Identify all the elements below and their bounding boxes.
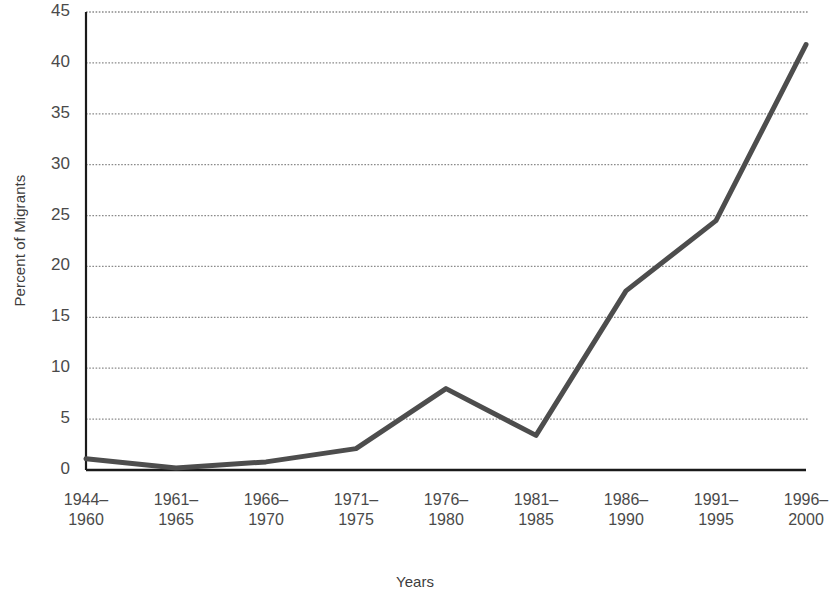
x-axis-tick-label: 1976– 1980 <box>396 490 496 530</box>
x-axis-tick-label: 1981– 1985 <box>486 490 586 530</box>
y-axis-tick-label: 40 <box>30 53 70 70</box>
y-axis-tick-label: 15 <box>30 307 70 324</box>
data-series-line <box>86 45 806 468</box>
y-axis-tick-label: 45 <box>30 2 70 19</box>
y-axis-tick-label: 20 <box>30 256 70 273</box>
gridlines <box>86 12 808 419</box>
x-axis-tick-label: 1944– 1960 <box>36 490 136 530</box>
y-axis-tick-label: 0 <box>30 460 70 477</box>
x-axis-tick-label: 1961– 1965 <box>126 490 226 530</box>
axis-lines <box>86 12 806 470</box>
x-axis-tick-label: 1986– 1990 <box>576 490 676 530</box>
x-axis-tick-label: 1996– 2000 <box>756 490 830 530</box>
chart-container: Percent of Migrants 051015202530354045 1… <box>0 0 830 603</box>
x-axis-tick-label: 1991– 1995 <box>666 490 766 530</box>
y-axis-tick-label: 35 <box>30 104 70 121</box>
y-axis-tick-label: 25 <box>30 206 70 223</box>
x-axis-tick-label: 1971– 1975 <box>306 490 406 530</box>
y-axis-tick-label: 10 <box>30 358 70 375</box>
y-axis-tick-label: 5 <box>30 409 70 426</box>
x-axis-title: Years <box>0 573 830 590</box>
x-axis-tick-label: 1966– 1970 <box>216 490 316 530</box>
y-axis-tick-label: 30 <box>30 155 70 172</box>
